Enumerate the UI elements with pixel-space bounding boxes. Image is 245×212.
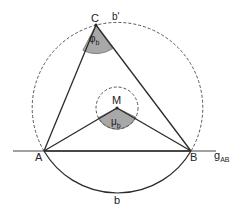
label-c: C	[91, 12, 99, 24]
geometry-figure: C b' M A B b gAB φb μb	[0, 0, 245, 212]
label-g-ab: gAB	[214, 149, 230, 163]
label-b-prime: b'	[112, 11, 120, 22]
label-m: M	[112, 94, 121, 106]
segment-bm	[117, 108, 191, 151]
label-arc-b: b	[114, 194, 120, 206]
segment-am	[44, 108, 117, 151]
point-m-dot	[115, 106, 118, 109]
label-a: A	[35, 151, 43, 163]
diagram-canvas: C b' M A B b gAB φb μb	[0, 0, 245, 212]
arc-b	[44, 151, 191, 193]
label-b-point: B	[190, 151, 197, 163]
